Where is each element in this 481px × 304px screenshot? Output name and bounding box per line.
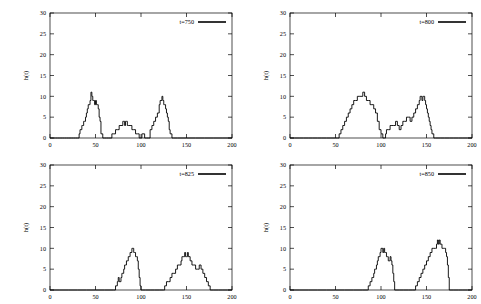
y-tick-label: 20	[280, 203, 286, 210]
x-tick-label: 200	[467, 293, 476, 300]
y-tick-label: 0	[43, 286, 46, 293]
legend-label: t=850	[420, 170, 435, 177]
y-tick-label: 5	[283, 265, 286, 272]
chart-svg-1: 051015202530050100150200h(t)t=800	[240, 0, 481, 152]
y-tick-label: 20	[40, 51, 46, 58]
x-tick-label: 50	[92, 293, 98, 300]
y-tick-label: 10	[40, 93, 46, 100]
y-axis-title: h(t)	[22, 71, 30, 81]
plot-frame-1: 051015202530050100150200h(t)t=800	[262, 9, 477, 147]
y-tick-label: 30	[280, 161, 286, 168]
y-tick-label: 0	[43, 134, 46, 141]
x-tick-label: 200	[467, 141, 476, 148]
y-tick-label: 30	[280, 9, 286, 16]
y-tick-label: 5	[43, 113, 46, 120]
x-tick-label: 150	[422, 141, 431, 148]
y-tick-label: 5	[43, 265, 46, 272]
x-tick-label: 0	[48, 141, 51, 148]
y-tick-label: 25	[40, 30, 46, 37]
x-tick-label: 150	[182, 141, 191, 148]
x-tick-label: 50	[332, 293, 338, 300]
chart-svg-3: 051015202530050100150200h(t)t=850	[240, 152, 481, 304]
legend-label: t=825	[180, 170, 195, 177]
y-tick-label: 10	[280, 245, 286, 252]
chart-panel-2: 051015202530050100150200h(t)t=825	[0, 152, 240, 304]
y-axis-title: h(t)	[262, 223, 270, 233]
y-tick-label: 25	[280, 182, 286, 189]
y-axis-title: h(t)	[262, 71, 270, 81]
x-tick-label: 0	[288, 293, 291, 300]
y-tick-label: 15	[280, 72, 286, 79]
chart-panel-3: 051015202530050100150200h(t)t=850	[240, 152, 481, 304]
x-tick-label: 0	[48, 293, 51, 300]
y-tick-label: 5	[283, 113, 286, 120]
y-tick-label: 15	[40, 224, 46, 231]
y-tick-label: 15	[280, 224, 286, 231]
data-series-line	[290, 240, 472, 290]
legend-label: t=750	[180, 18, 195, 25]
data-series-line	[290, 92, 472, 138]
y-tick-label: 20	[40, 203, 46, 210]
x-tick-label: 100	[376, 293, 385, 300]
chart-svg-0: 051015202530050100150200h(t)t=750	[0, 0, 240, 152]
y-axis-title: h(t)	[22, 223, 30, 233]
x-tick-label: 200	[227, 141, 236, 148]
chart-panel-0: 051015202530050100150200h(t)t=750	[0, 0, 240, 152]
plot-frame-0: 051015202530050100150200h(t)t=750	[22, 9, 237, 147]
x-tick-label: 150	[182, 293, 191, 300]
plot-frame-3: 051015202530050100150200h(t)t=850	[262, 161, 477, 299]
y-tick-label: 10	[40, 245, 46, 252]
y-tick-label: 25	[280, 30, 286, 37]
chart-svg-2: 051015202530050100150200h(t)t=825	[0, 152, 240, 304]
y-tick-label: 0	[283, 286, 286, 293]
y-tick-label: 10	[280, 93, 286, 100]
y-tick-label: 30	[40, 9, 46, 16]
y-tick-label: 20	[280, 51, 286, 58]
x-tick-label: 50	[92, 141, 98, 148]
x-tick-label: 100	[376, 141, 385, 148]
x-tick-label: 200	[227, 293, 236, 300]
data-series-line	[50, 92, 232, 138]
y-tick-label: 15	[40, 72, 46, 79]
plot-frame-2: 051015202530050100150200h(t)t=825	[22, 161, 237, 299]
x-tick-label: 100	[136, 141, 145, 148]
x-tick-label: 0	[288, 141, 291, 148]
data-series-line	[50, 248, 232, 290]
chart-panel-1: 051015202530050100150200h(t)t=800	[240, 0, 481, 152]
y-tick-label: 25	[40, 182, 46, 189]
x-tick-label: 50	[332, 141, 338, 148]
y-tick-label: 0	[283, 134, 286, 141]
x-tick-label: 150	[422, 293, 431, 300]
legend-label: t=800	[420, 18, 435, 25]
figure-grid: 051015202530050100150200h(t)t=750 051015…	[0, 0, 481, 304]
x-tick-label: 100	[136, 293, 145, 300]
y-tick-label: 30	[40, 161, 46, 168]
